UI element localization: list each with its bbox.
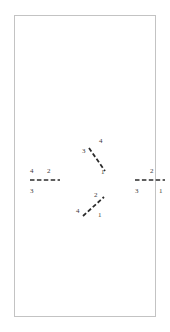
segment-left-label-top-left: 4 bbox=[30, 168, 34, 175]
segment-right-label-bottom-right: 1 bbox=[159, 188, 163, 195]
segment-left-horizontal[interactable]: 4 2 3 bbox=[29, 168, 67, 198]
segment-upper-label-top-left: 3 bbox=[82, 148, 86, 155]
segment-lower-diagonal[interactable]: 2 4 1 bbox=[76, 192, 110, 224]
segment-lower-label-bottom-right: 1 bbox=[98, 212, 102, 219]
segment-upper-label-top-right: 4 bbox=[99, 138, 103, 145]
segment-right-label-bottom-left: 3 bbox=[135, 188, 139, 195]
segment-lower-label-bottom-left: 4 bbox=[76, 208, 80, 215]
segment-left-label-bottom-left: 3 bbox=[30, 188, 34, 195]
segment-right-horizontal[interactable]: 2 3 1 bbox=[134, 168, 170, 198]
segment-left-label-top-right: 2 bbox=[47, 168, 51, 175]
dashed-stroke-icon bbox=[81, 138, 113, 178]
dashed-stroke-icon bbox=[76, 192, 110, 224]
segment-upper-diagonal[interactable]: 4 3 1 bbox=[81, 138, 113, 178]
segment-lower-label-top-right: 2 bbox=[94, 192, 98, 199]
segment-right-label-top-center: 2 bbox=[150, 168, 154, 175]
segment-upper-label-bottom-right: 1 bbox=[101, 169, 105, 176]
drawing-canvas[interactable]: 4 2 3 2 3 1 4 3 1 2 4 bbox=[14, 15, 156, 317]
screenshot-root: 4 2 3 2 3 1 4 3 1 2 4 bbox=[0, 0, 170, 332]
